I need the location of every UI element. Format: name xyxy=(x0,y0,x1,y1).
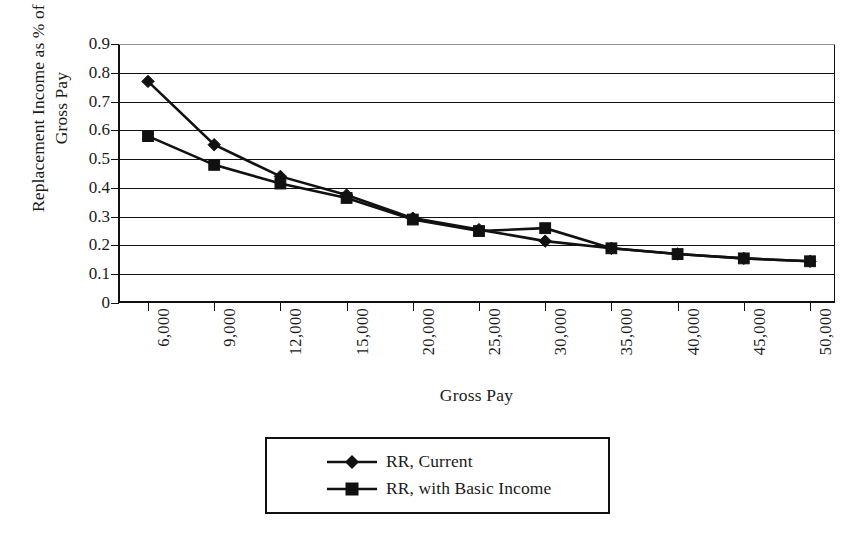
plot-area xyxy=(118,44,835,303)
y-tick-label: 0.8 xyxy=(62,63,110,83)
legend-label: RR, Current xyxy=(386,451,473,472)
data-point-square xyxy=(407,214,418,225)
y-tick-label: 0.5 xyxy=(62,149,110,169)
y-tick-label: 0.1 xyxy=(62,264,110,284)
series-rr-basic-income xyxy=(143,131,816,267)
x-tick-label: 15,000 xyxy=(353,308,373,355)
data-point-square xyxy=(275,178,286,189)
x-tick-label: 35,000 xyxy=(617,308,637,355)
data-point-square xyxy=(606,243,617,254)
legend-label: RR, with Basic Income xyxy=(386,478,551,499)
legend-square-icon xyxy=(325,479,379,499)
x-tick-label: 45,000 xyxy=(750,308,770,355)
y-tick-label: 0.9 xyxy=(62,34,110,54)
y-tick-label: 0.4 xyxy=(62,178,110,198)
chart-legend: RR, CurrentRR, with Basic Income xyxy=(265,437,610,514)
x-axis-title: Gross Pay xyxy=(118,385,835,406)
series-line xyxy=(148,136,810,261)
x-tick-label: 30,000 xyxy=(551,308,571,355)
y-tick-mark xyxy=(111,303,119,304)
legend-diamond-icon xyxy=(325,452,379,472)
y-axis-tick-labels: 00.10.20.30.40.50.60.70.80.9 xyxy=(62,34,110,306)
x-tick-label: 25,000 xyxy=(485,308,505,355)
data-point-diamond xyxy=(539,235,551,247)
legend-item[interactable]: RR, Current xyxy=(267,448,608,475)
legend-item[interactable]: RR, with Basic Income xyxy=(267,475,608,502)
data-point-square xyxy=(738,253,749,264)
x-tick-label: 9,000 xyxy=(220,308,240,347)
chart-figure: Replacement Income as % of Gross Pay 00.… xyxy=(0,0,865,541)
y-tick-label: 0.7 xyxy=(62,92,110,112)
data-point-square xyxy=(540,223,551,234)
x-tick-label: 40,000 xyxy=(684,308,704,355)
y-tick-label: 0 xyxy=(62,293,110,313)
data-point-square xyxy=(209,159,220,170)
data-point-square xyxy=(672,249,683,260)
y-tick-label: 0.6 xyxy=(62,120,110,140)
x-tick-label: 20,000 xyxy=(419,308,439,355)
x-tick-label: 50,000 xyxy=(816,308,836,355)
series-rr-current xyxy=(142,75,816,267)
x-tick-label: 12,000 xyxy=(286,308,306,355)
x-tick-label: 6,000 xyxy=(154,308,174,347)
x-axis-tick-labels: 6,0009,00012,00015,00020,00025,00030,000… xyxy=(118,308,835,388)
y-tick-label: 0.3 xyxy=(62,207,110,227)
series-layer xyxy=(118,44,835,303)
data-point-square xyxy=(474,226,485,237)
y-tick-label: 0.2 xyxy=(62,235,110,255)
data-point-square xyxy=(341,193,352,204)
data-point-square xyxy=(143,131,154,142)
data-point-square xyxy=(805,256,816,267)
